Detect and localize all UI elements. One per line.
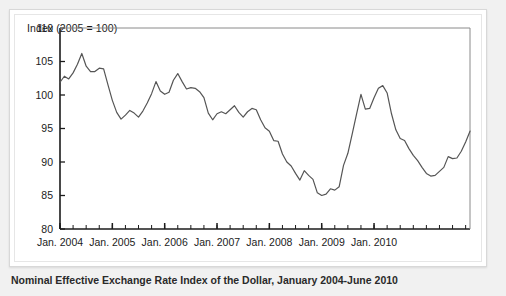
y-axis-tick-labels: 80859095100105110	[35, 22, 53, 235]
figure-root: Index (2005 = 100) 80859095100105110 Jan…	[0, 0, 506, 296]
svg-text:Jan. 2007: Jan. 2007	[194, 236, 240, 248]
figure-caption: Nominal Effective Exchange Rate Index of…	[11, 274, 398, 286]
data-series-line	[60, 53, 470, 195]
svg-text:Jan. 2008: Jan. 2008	[246, 236, 292, 248]
svg-text:80: 80	[41, 223, 53, 235]
figure-caption-strip: Nominal Effective Exchange Rate Index of…	[9, 274, 487, 296]
svg-text:Jan. 2004: Jan. 2004	[37, 236, 83, 248]
x-axis-major-tick-marks	[60, 223, 374, 229]
figure-panel: Index (2005 = 100) 80859095100105110 Jan…	[14, 14, 482, 262]
x-axis-tick-labels: Jan. 2004Jan. 2005Jan. 2006Jan. 2007Jan.…	[37, 236, 397, 248]
line-chart-plot: 80859095100105110 Jan. 2004Jan. 2005Jan.…	[15, 15, 483, 263]
svg-text:105: 105	[35, 55, 53, 67]
svg-text:Jan. 2006: Jan. 2006	[142, 236, 188, 248]
svg-text:90: 90	[41, 156, 53, 168]
figure-card: Index (2005 = 100) 80859095100105110 Jan…	[9, 9, 487, 267]
svg-text:85: 85	[41, 189, 53, 201]
svg-text:Jan. 2010: Jan. 2010	[351, 236, 397, 248]
svg-text:95: 95	[41, 122, 53, 134]
svg-text:Jan. 2005: Jan. 2005	[89, 236, 135, 248]
svg-text:100: 100	[35, 89, 53, 101]
svg-text:Jan. 2009: Jan. 2009	[299, 236, 345, 248]
svg-text:110: 110	[36, 22, 53, 34]
